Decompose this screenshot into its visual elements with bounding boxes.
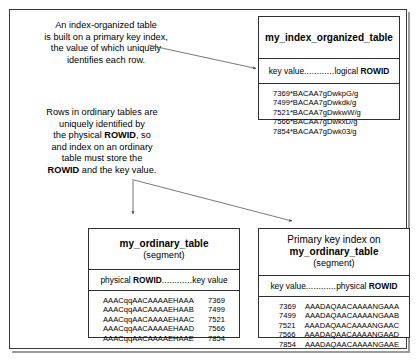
column-header-key-value: key value xyxy=(270,281,305,291)
row-key: 7369 xyxy=(208,296,225,305)
table-row: 7566AAADAQAACAAAANGAAD xyxy=(273,330,399,339)
caption-top-line-1: An index-organized table xyxy=(18,20,194,32)
index-organized-table-box: my_index_organized_table key value......… xyxy=(258,16,400,120)
column-header-dots: ............ xyxy=(162,275,192,285)
ordinary-table-title: my_ordinary_table (segment) xyxy=(89,229,239,269)
row-rowid: AAADAQAACAAAANGAAE xyxy=(305,340,399,349)
row-key: 7499 xyxy=(208,305,225,314)
ordinary-table-name: my_ordinary_table xyxy=(120,238,209,249)
row-value: 7499*BACAA7gDwkdk/g xyxy=(273,98,356,107)
caption-rowid-emphasis-1: ROWID xyxy=(104,130,136,140)
row-rowid: AAACqqAACAAAAEHAAB xyxy=(103,305,194,314)
table-row: AAACqqAACAAAAEHAAE7854 xyxy=(103,334,225,343)
primary-key-index-title: Primary key index on my_ordinary_table (… xyxy=(259,229,409,275)
table-row: 7854AAADAQAACAAAANGAAE xyxy=(273,340,399,349)
caption-bottom-line-2: uniquely identified by xyxy=(10,119,194,131)
caption-bottom-line-4: and index on an ordinary xyxy=(10,142,194,154)
index-organized-table-column-header: key value............logical ROWID xyxy=(259,59,399,83)
primary-key-index-box: Primary key index on my_ordinary_table (… xyxy=(258,228,410,338)
table-row: AAACqqAACAAAAEHAAC7521 xyxy=(103,315,225,324)
column-header-key-value: key value xyxy=(192,275,227,285)
table-row: 7521*BACAA7gDwkwW/g xyxy=(273,108,399,117)
column-header-dots: ............ xyxy=(304,66,334,76)
column-header-rowid: ROWID xyxy=(133,275,162,285)
caption-bottom-line-6: ROWID and the key value. xyxy=(10,165,194,177)
diagram-figure: An index-organized table is built on a p… xyxy=(0,0,418,362)
primary-key-index-column-header: key value............physical ROWID xyxy=(259,276,409,296)
primary-key-index-table-name: my_ordinary_table xyxy=(290,246,379,257)
ordinary-table-rows: AAACqqAACAAAAEHAAA7369 AAACqqAACAAAAEHAA… xyxy=(89,291,239,349)
caption-bottom-line-3: the physical ROWID, so xyxy=(10,130,194,142)
row-rowid: AAACqqAACAAAAEHAAC xyxy=(103,315,194,324)
row-key: 7854 xyxy=(208,334,225,343)
index-organized-table-rows: 7369*BACAA7gDwkpG/g 7499*BACAA7gDwkdk/g … xyxy=(259,84,399,142)
caption-ordinary-rows: Rows in ordinary tables are uniquely ide… xyxy=(10,107,194,177)
caption-top-line-2: is built on a primary key index, xyxy=(18,32,194,44)
row-key: 7499 xyxy=(273,311,296,320)
table-row: AAACqqAACAAAAEHAAA7369 xyxy=(103,296,225,305)
row-value: 7521*BACAA7gDwkwW/g xyxy=(273,108,361,117)
caption-bottom-line-1: Rows in ordinary tables are xyxy=(10,107,194,119)
column-header-physical: physical xyxy=(336,281,369,291)
ordinary-table-subtitle: (segment) xyxy=(93,250,235,261)
column-header-logical: logical xyxy=(334,66,360,76)
row-key: 7854 xyxy=(273,340,296,349)
row-key: 7566 xyxy=(273,330,295,339)
row-rowid: AAADAQAACAAAANGAAC xyxy=(304,321,399,330)
column-header-rowid: ROWID xyxy=(369,281,398,291)
row-rowid: AAACqqAACAAAAEHAAA xyxy=(103,296,194,305)
primary-key-index-subtitle: (segment) xyxy=(263,258,405,269)
caption-top-line-4: identifies each row. xyxy=(18,55,194,67)
table-row: 7499*BACAA7gDwkdk/g xyxy=(273,98,399,107)
ordinary-table-box: my_ordinary_table (segment) physical ROW… xyxy=(88,228,240,338)
row-rowid: AAACqqAACAAAAEHAAD xyxy=(103,324,194,333)
table-row: 7499AAADAQAACAAAANGAAB xyxy=(273,311,399,320)
column-header-key-value: key value xyxy=(269,66,304,76)
index-organized-table-title: my_index_organized_table xyxy=(259,17,399,58)
row-key: 7566 xyxy=(208,324,225,333)
table-row: AAACqqAACAAAAEHAAB7499 xyxy=(103,305,225,314)
row-value: 7369*BACAA7gDwkpG/g xyxy=(273,89,358,98)
row-value: 7566*BACAA7gDwkxD/g xyxy=(273,117,357,126)
column-header-rowid: ROWID xyxy=(360,66,389,76)
table-row: 7566*BACAA7gDwkxD/g xyxy=(273,117,399,126)
table-row: 7369AAADAQAACAAAANGAAA xyxy=(273,302,399,311)
primary-key-index-rows: 7369AAADAQAACAAAANGAAA 7499AAADAQAACAAAA… xyxy=(259,297,409,355)
caption-top-line-3: the value of which uniquely xyxy=(18,43,194,55)
row-key: 7521 xyxy=(273,321,295,330)
row-key: 7369 xyxy=(273,302,296,311)
row-rowid: AAADAQAACAAAANGAAD xyxy=(304,330,399,339)
table-row: 7369*BACAA7gDwkpG/g xyxy=(273,89,399,98)
row-rowid: AAADAQAACAAAANGAAB xyxy=(305,311,399,320)
caption-index-organized: An index-organized table is built on a p… xyxy=(18,20,194,66)
primary-key-index-lead: Primary key index on xyxy=(263,234,405,246)
table-row: AAACqqAACAAAAEHAAD7566 xyxy=(103,324,225,333)
row-rowid: AAADAQAACAAAANGAAA xyxy=(305,302,399,311)
caption-bottom-line-5: table must store the xyxy=(10,153,194,165)
table-row: 7521AAADAQAACAAAANGAAC xyxy=(273,321,399,330)
column-header-physical: physical xyxy=(100,275,133,285)
ordinary-table-column-header: physical ROWID............key value xyxy=(89,270,239,290)
caption-rowid-emphasis-2: ROWID xyxy=(48,165,80,175)
table-row: 7854*BACAA7gDwk03/g xyxy=(273,127,399,136)
row-rowid: AAACqqAACAAAAEHAAE xyxy=(103,334,194,343)
row-value: 7854*BACAA7gDwk03/g xyxy=(273,127,357,136)
row-key: 7521 xyxy=(208,315,225,324)
column-header-dots: ............ xyxy=(306,281,336,291)
